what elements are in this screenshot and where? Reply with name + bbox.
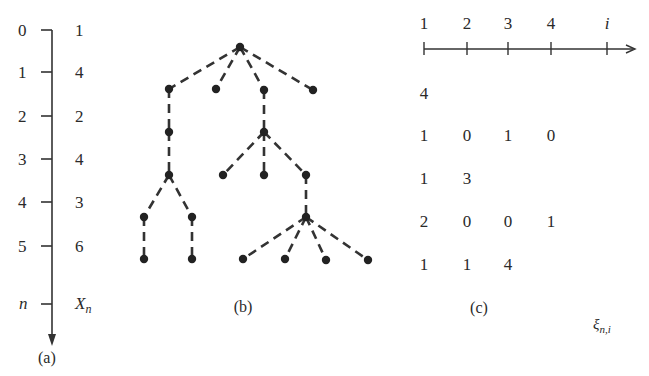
offspring-count: 4 xyxy=(504,256,513,273)
axis-tick-label: 3 xyxy=(504,15,513,32)
axis-tick-label: 2 xyxy=(463,15,472,32)
offspring-count: 1 xyxy=(463,256,472,273)
offspring-count: 1 xyxy=(420,170,429,187)
xi-label: ξn,i xyxy=(593,317,611,335)
axis-tick-label: 4 xyxy=(547,15,556,32)
offspring-count: 0 xyxy=(504,213,513,230)
offspring-count: 4 xyxy=(420,85,429,102)
panel-c-axis xyxy=(0,0,649,376)
axis-tick-label: 1 xyxy=(420,15,429,32)
offspring-count: 1 xyxy=(420,256,429,273)
axis-tick-label-i: i xyxy=(605,15,610,32)
offspring-count: 1 xyxy=(420,127,429,144)
offspring-count: 1 xyxy=(547,213,556,230)
offspring-count: 0 xyxy=(463,213,472,230)
offspring-count: 0 xyxy=(463,127,472,144)
caption-c: (c) xyxy=(470,300,488,316)
offspring-count: 3 xyxy=(463,170,472,187)
offspring-count: 1 xyxy=(504,127,513,144)
offspring-count: 2 xyxy=(420,213,429,230)
offspring-count: 0 xyxy=(547,127,556,144)
